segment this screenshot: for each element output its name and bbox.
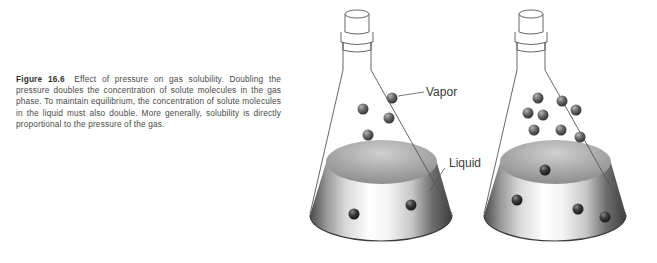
- gas-molecules: [358, 93, 398, 141]
- high-pressure-flask: [484, 10, 626, 241]
- flasks-illustration: [0, 0, 657, 263]
- liquid-label: Liquid: [449, 156, 481, 170]
- vapor-label: Vapor: [426, 85, 457, 99]
- low-pressure-flask: [310, 10, 452, 241]
- gas-molecules: [523, 93, 586, 143]
